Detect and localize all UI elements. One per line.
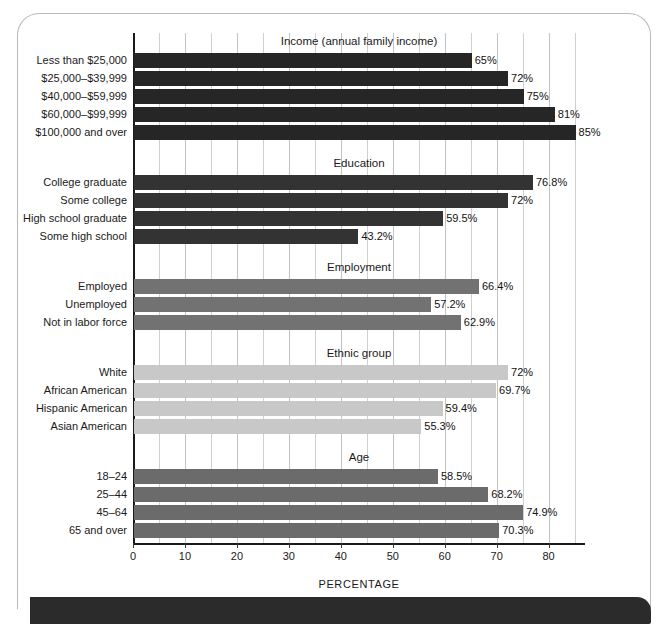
bar-value-label: 76.8% xyxy=(536,176,567,188)
bar xyxy=(134,315,461,330)
x-axis-tick xyxy=(133,543,134,548)
group-header-education: Education xyxy=(133,157,585,169)
bar-value-label: 59.5% xyxy=(446,212,477,224)
bar xyxy=(134,419,421,434)
bar xyxy=(134,229,358,244)
category-label: Employed xyxy=(0,280,127,292)
x-axis-tick-label: 50 xyxy=(387,550,399,562)
category-label: 25–44 xyxy=(0,488,127,500)
x-axis-tick-label: 0 xyxy=(130,550,136,562)
x-axis-tick xyxy=(497,543,498,548)
category-label: $100,000 and over xyxy=(0,126,127,138)
group-header-employment: Employment xyxy=(133,261,585,273)
bar-value-label: 74.9% xyxy=(526,506,557,518)
x-axis-title: PERCENTAGE xyxy=(133,578,585,590)
bar xyxy=(134,505,523,520)
category-label: 45–64 xyxy=(0,506,127,518)
category-label: $40,000–$59,999 xyxy=(0,90,127,102)
x-axis-tick xyxy=(289,543,290,548)
bar xyxy=(134,297,431,312)
category-label: Unemployed xyxy=(0,298,127,310)
bar xyxy=(134,383,496,398)
bar xyxy=(134,71,508,86)
bar xyxy=(134,107,555,122)
x-axis-tick-label: 40 xyxy=(335,550,347,562)
bar-value-label: 59.4% xyxy=(446,402,477,414)
category-label: $60,000–$99,999 xyxy=(0,108,127,120)
bar xyxy=(134,53,472,68)
bar xyxy=(134,469,438,484)
bar-value-label: 55.3% xyxy=(424,420,455,432)
category-label: White xyxy=(0,366,127,378)
bar-value-label: 72% xyxy=(511,366,533,378)
bar-value-label: 72% xyxy=(511,72,533,84)
category-label: 65 and over xyxy=(0,524,127,536)
bar-value-label: 69.7% xyxy=(499,384,530,396)
group-header-ethnic: Ethnic group xyxy=(133,347,585,359)
x-axis-tick xyxy=(445,543,446,548)
bar xyxy=(134,89,524,104)
x-axis-tick xyxy=(237,543,238,548)
bar xyxy=(134,193,508,208)
x-axis-line xyxy=(133,543,585,545)
x-axis-tick-label: 30 xyxy=(283,550,295,562)
x-axis-tick xyxy=(549,543,550,548)
bar-value-label: 68.2% xyxy=(491,488,522,500)
bar xyxy=(134,365,508,380)
category-label: College graduate xyxy=(0,176,127,188)
category-label: Some college xyxy=(0,194,127,206)
bar xyxy=(134,279,479,294)
bar-value-label: 75% xyxy=(527,90,549,102)
category-label: African American xyxy=(0,384,127,396)
bar-value-label: 65% xyxy=(475,54,497,66)
bar xyxy=(134,175,533,190)
bar xyxy=(134,487,488,502)
x-axis-tick xyxy=(185,543,186,548)
bar-value-label: 81% xyxy=(558,108,580,120)
category-label: Hispanic American xyxy=(0,402,127,414)
x-axis-tick-label: 70 xyxy=(491,550,503,562)
bar-value-label: 66.4% xyxy=(482,280,513,292)
bar xyxy=(134,211,443,226)
group-header-age: Age xyxy=(133,451,585,463)
bar-value-label: 57.2% xyxy=(434,298,465,310)
grouped-horizontal-bar-chart: PERCENTAGE 01020304050607080Income (annu… xyxy=(0,0,667,624)
category-label: High school graduate xyxy=(0,212,127,224)
category-label: Not in labor force xyxy=(0,316,127,328)
bar-value-label: 62.9% xyxy=(464,316,495,328)
x-axis-tick-label: 80 xyxy=(543,550,555,562)
x-axis-tick xyxy=(393,543,394,548)
bar xyxy=(134,401,443,416)
bar-value-label: 72% xyxy=(511,194,533,206)
category-label: 18–24 xyxy=(0,470,127,482)
category-label: Asian American xyxy=(0,420,127,432)
category-label: $25,000–$39,999 xyxy=(0,72,127,84)
bar xyxy=(134,125,576,140)
bar xyxy=(134,523,499,538)
bar-value-label: 85% xyxy=(579,126,601,138)
x-axis-tick-label: 60 xyxy=(439,550,451,562)
category-label: Some high school xyxy=(0,230,127,242)
x-axis-tick xyxy=(341,543,342,548)
bar-value-label: 70.3% xyxy=(502,524,533,536)
group-header-income: Income (annual family income) xyxy=(133,35,585,47)
x-axis-tick-label: 10 xyxy=(179,550,191,562)
category-label: Less than $25,000 xyxy=(0,54,127,66)
x-axis-tick-label: 20 xyxy=(231,550,243,562)
bar-value-label: 58.5% xyxy=(441,470,472,482)
bar-value-label: 43.2% xyxy=(361,230,392,242)
